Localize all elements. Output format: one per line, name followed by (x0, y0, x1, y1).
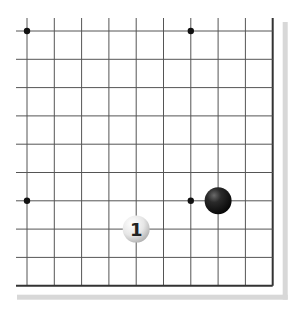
stone-body (205, 187, 232, 214)
board-grid (16, 18, 273, 286)
shadow-bottom (17, 295, 288, 300)
white-stone[interactable]: 1 (123, 216, 150, 243)
move-number: 1 (130, 219, 143, 240)
stones-layer: 1 (123, 187, 232, 242)
star-point (24, 198, 30, 204)
board-shadow (17, 22, 288, 300)
go-board[interactable]: 1 (0, 0, 301, 311)
shadow-right (283, 22, 288, 300)
star-point (24, 28, 30, 34)
black-stone[interactable] (205, 187, 232, 214)
star-point (188, 28, 194, 34)
star-point (188, 198, 194, 204)
